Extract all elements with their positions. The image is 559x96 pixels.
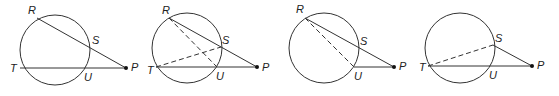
circle — [289, 13, 359, 83]
label-u: U — [354, 70, 362, 82]
secant-rp — [169, 18, 257, 67]
chord-ts — [156, 47, 221, 67]
label-s: S — [360, 35, 368, 47]
point-p-dot — [255, 65, 259, 69]
label-t: T — [419, 61, 427, 73]
chord-ts — [428, 45, 493, 66]
point-p-dot — [124, 66, 128, 70]
point-p-dot — [530, 64, 534, 68]
figure-3: R S U P — [289, 3, 407, 83]
circle-secant-diagrams: R S T U P R S T U P R S U P S — [0, 0, 559, 96]
circle — [152, 13, 222, 83]
label-p: P — [537, 59, 545, 71]
label-s: S — [222, 34, 230, 46]
chord-ru — [169, 18, 217, 67]
label-t: T — [147, 64, 155, 76]
figure-2: R S T U P — [147, 4, 270, 83]
label-p: P — [262, 61, 270, 73]
figure-4: S T U P — [419, 13, 545, 83]
secant-rp — [305, 18, 394, 67]
label-r: R — [162, 4, 170, 16]
label-s: S — [495, 32, 503, 44]
circle — [20, 15, 90, 85]
label-s: S — [92, 34, 100, 46]
secant-rp — [37, 18, 126, 68]
label-p: P — [399, 60, 407, 72]
label-r: R — [28, 4, 36, 16]
segment-sp — [493, 45, 532, 66]
figure-1: R S T U P — [10, 4, 139, 85]
label-u: U — [489, 69, 497, 81]
point-p-dot — [392, 65, 396, 69]
label-r: R — [296, 3, 304, 15]
chord-ru — [305, 18, 354, 67]
label-t: T — [10, 62, 18, 74]
label-p: P — [131, 61, 139, 73]
label-u: U — [216, 70, 224, 82]
label-u: U — [84, 71, 92, 83]
